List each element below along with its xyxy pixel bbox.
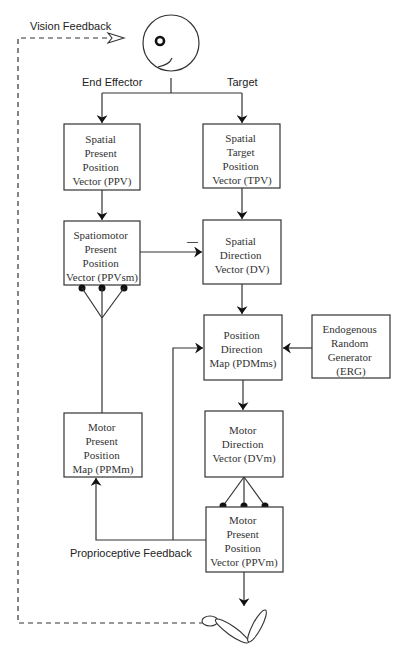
vision-feedback-arrowhead [108,33,124,43]
dvm-fan-out-connector [220,477,269,510]
vision-feedback-label: Vision Feedback [30,20,112,32]
dv-line: Spatial [225,235,256,247]
end-effector-label: End Effector [82,76,143,88]
tpv-box: Spatial Target Position Vector (TPV) [203,124,280,188]
erg-line: Random [331,337,369,349]
dvm-line: Motor [229,424,257,436]
erg-line: Generator [328,351,372,363]
ppvm-box: Motor Present Position Vector (PPVm) [206,507,283,572]
ppv-line: Present [84,147,116,159]
ppvsm-fan-in-connector [79,285,128,414]
proprioceptive-feedback-label: Proprioceptive Feedback [70,547,192,559]
pdmms-line: Direction [221,343,263,355]
ppvsm-line: Position [83,257,120,269]
arm-icon [202,608,269,646]
ppmm-box: Motor Present Position Map (PPMm) [64,413,142,477]
ppmm-line: Map (PPMm) [73,463,134,476]
tpv-line: Vector (TPV) [212,174,272,187]
dv-box: Spatial Direction Vector (DV) [203,220,281,284]
ppv-box: Spatial Present Position Vector (PPV) [64,124,140,190]
ppv-line: Vector (PPV) [73,175,132,188]
target-label: Target [227,76,258,88]
ppvm-line: Present [226,528,258,540]
erg-line: (ERG) [336,365,366,378]
ppvm-line: Motor [229,514,257,526]
erg-box: Endogenous Random Generator (ERG) [312,315,390,378]
pdmms-box: Position Direction Map (PDMms) [204,315,282,380]
dvm-line: Vector (DVm) [212,452,276,465]
pdmms-line: Map (PDMms) [210,357,277,370]
ppvm-line: Vector (PPVm) [210,556,278,569]
dvm-box: Motor Direction Vector (DVm) [205,411,283,477]
ppmm-line: Position [84,449,121,461]
eye-icon [143,15,199,71]
diagram-canvas: Vision Feedback End Effector Target Spat… [0,0,408,657]
ppv-line: Spatial [85,133,116,145]
ppv-line: Position [83,161,120,173]
ppmm-line: Present [85,435,117,447]
tpv-line: Spatial [225,132,256,144]
tpv-line: Position [223,160,260,172]
vision-feedback-path [18,33,213,623]
dvm-line: Direction [222,438,264,450]
ppvm-line: Position [225,542,262,554]
ppvsm-line: Present [84,243,116,255]
ppmm-line: Motor [88,421,116,433]
dv-line: Direction [220,249,262,261]
pdmms-line: Position [224,329,261,341]
erg-line: Endogenous [322,323,376,335]
ppvsm-line: Vector (PPVsm) [66,271,138,284]
tpv-line: Target [227,146,255,158]
ppvsm-line: Spatiomotor [73,229,128,241]
dv-line: Vector (DV) [215,263,270,276]
minus-sign: — [187,235,198,247]
ppvsm-box: Spatiomotor Present Position Vector (PPV… [64,221,140,285]
